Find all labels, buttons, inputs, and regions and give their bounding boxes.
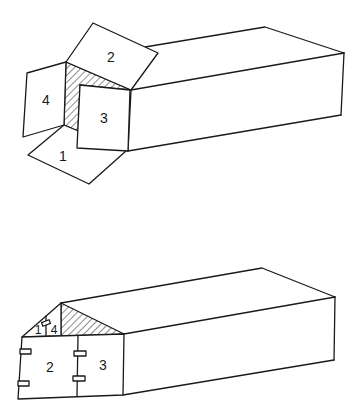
closed-box-bottom-edge <box>123 360 334 395</box>
closed-box-middle-edge <box>124 297 335 334</box>
open-box-flap-1-label: 1 <box>59 148 67 164</box>
diagram-canvas: 2 4 1 3 1 4 2 3 <box>0 0 361 417</box>
closed-box-tab-mid-lower <box>73 376 85 381</box>
open-box-flap-4-label: 4 <box>42 92 50 108</box>
open-box-middle-edge <box>131 53 344 90</box>
closed-box-end-shaded <box>61 303 124 336</box>
open-box-top-edge <box>145 27 344 53</box>
closed-box-flap-3-label: 3 <box>99 357 107 373</box>
open-box-bottom-edge <box>128 115 341 151</box>
open-box-figure: 2 4 1 3 <box>23 23 344 184</box>
closed-box-front-face <box>18 334 124 399</box>
closed-box-flap-2-label: 2 <box>46 359 54 375</box>
closed-box-tab-left-upper <box>20 349 31 354</box>
closed-box-figure: 1 4 2 3 <box>18 268 335 399</box>
open-box-right-edge <box>341 53 344 115</box>
closed-box-flap-1-label: 1 <box>35 323 42 337</box>
open-box-flap-2-label: 2 <box>107 49 115 65</box>
closed-box-tab-mid-upper <box>74 351 86 356</box>
closed-box-right-edge <box>334 297 335 360</box>
open-box-flap-3-label: 3 <box>100 110 108 126</box>
closed-box-top-edge <box>61 268 335 303</box>
closed-box-tab-left-lower <box>18 381 29 386</box>
closed-box-flap-4-label: 4 <box>51 323 58 337</box>
